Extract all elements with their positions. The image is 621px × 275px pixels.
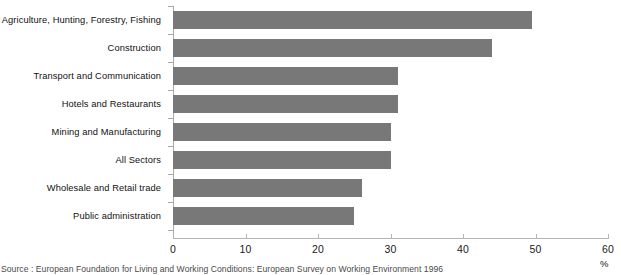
x-axis-tick — [608, 234, 609, 239]
x-axis-tick-label: 0 — [153, 243, 193, 255]
category-label: All Sectors — [0, 146, 161, 174]
category-label: Transport and Communication — [0, 62, 161, 90]
bar-row — [173, 146, 608, 174]
bar — [173, 95, 398, 113]
y-axis-tick — [168, 62, 174, 63]
bar-row — [173, 118, 608, 146]
bar-row — [173, 174, 608, 202]
bar — [173, 179, 362, 197]
y-axis-tick — [168, 90, 174, 91]
x-axis-tick — [318, 234, 319, 239]
bar — [173, 11, 532, 29]
bar — [173, 207, 354, 225]
x-axis-tick-label: 50 — [516, 243, 556, 255]
bar — [173, 39, 492, 57]
y-axis-tick — [168, 202, 174, 203]
y-axis-tick — [168, 230, 174, 231]
bar — [173, 123, 391, 141]
x-axis-tick-label: 20 — [298, 243, 338, 255]
category-label: Hotels and Restaurants — [0, 90, 161, 118]
bar-row — [173, 34, 608, 62]
bar-row — [173, 62, 608, 90]
bar — [173, 67, 398, 85]
x-axis-tick-label: 10 — [226, 243, 266, 255]
x-axis-tick-label: 30 — [371, 243, 411, 255]
y-axis-tick — [168, 6, 174, 7]
bar-row — [173, 90, 608, 118]
x-axis-tick-label: 60 — [588, 243, 621, 255]
x-axis-tick — [463, 234, 464, 239]
y-axis-tick — [168, 34, 174, 35]
y-axis-tick — [168, 174, 174, 175]
category-label: Construction — [0, 34, 161, 62]
bar — [173, 151, 391, 169]
x-axis-unit-label: % — [600, 258, 608, 269]
x-axis-tick — [391, 234, 392, 239]
category-label: Mining and Manufacturing — [0, 118, 161, 146]
category-axis-labels: Agriculture, Hunting, Forestry, FishingC… — [0, 6, 167, 238]
x-axis-tick — [246, 234, 247, 239]
horizontal-bar-chart: Agriculture, Hunting, Forestry, FishingC… — [0, 0, 621, 275]
x-axis-tick-label: 40 — [443, 243, 483, 255]
bars-layer — [173, 6, 608, 238]
bar-row — [173, 6, 608, 34]
bar-row — [173, 202, 608, 230]
plot-area — [173, 6, 608, 238]
x-axis-tick — [173, 234, 174, 239]
y-axis-tick — [168, 118, 174, 119]
y-axis-tick — [168, 146, 174, 147]
source-note: Source : European Foundation for Living … — [1, 264, 443, 274]
category-label: Agriculture, Hunting, Forestry, Fishing — [0, 6, 161, 34]
x-axis-tick — [536, 234, 537, 239]
category-label: Wholesale and Retail trade — [0, 174, 161, 202]
category-label: Public administration — [0, 202, 161, 230]
